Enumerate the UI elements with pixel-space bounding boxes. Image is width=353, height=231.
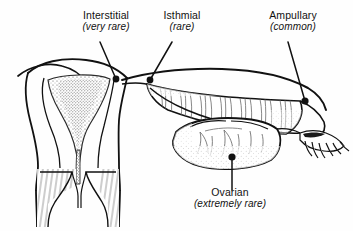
label-ampullary-title: Ampullary [251, 9, 335, 21]
leader-line-ampullary [288, 42, 305, 101]
label-ampullary-frequency: (common) [251, 21, 335, 33]
label-isthmial: Isthmial (rare) [147, 9, 217, 33]
uterus-wall-right [119, 78, 127, 190]
ectocervix-outline-right [81, 172, 86, 208]
label-interstitial-title: Interstitial [63, 9, 149, 21]
uterus-wall-left [26, 73, 38, 190]
label-ovarian-title: Ovarian [174, 186, 286, 198]
cervical-canal [76, 150, 80, 184]
leader-line-isthmial [150, 42, 172, 80]
leader-dot-interstitial [113, 76, 120, 83]
cervix-right-contour [119, 190, 120, 227]
label-ampullary: Ampullary (common) [251, 9, 335, 33]
label-isthmial-title: Isthmial [147, 9, 217, 21]
label-ovarian-frequency: (extremely rare) [174, 198, 286, 210]
label-interstitial: Interstitial (very rare) [63, 9, 149, 33]
label-interstitial-frequency: (very rare) [63, 21, 149, 33]
leader-dot-ampullary [301, 97, 308, 104]
cervix-left-contour [36, 190, 37, 227]
label-ovarian: Ovarian (extremely rare) [174, 186, 286, 210]
label-isthmial-frequency: (rare) [147, 21, 217, 33]
leader-dot-ovarian [228, 153, 235, 160]
leader-dot-isthmial [147, 77, 154, 84]
anatomical-diagram: Interstitial (very rare) Isthmial (rare)… [0, 0, 353, 231]
leader-line-interstitial [100, 42, 116, 79]
